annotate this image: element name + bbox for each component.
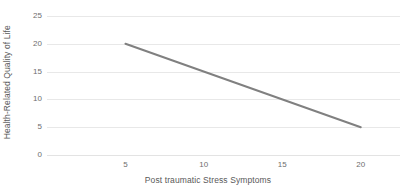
series-line-group xyxy=(47,16,400,155)
y-tick-label-5: 5 xyxy=(14,123,42,131)
y-axis-title: Health-Related Quality of Life xyxy=(0,0,14,165)
gridline-y-0 xyxy=(47,155,400,156)
x-tick-label-15: 15 xyxy=(267,161,297,169)
x-axis-title: Post traumatic Stress Symptoms xyxy=(0,176,416,185)
x-tick-label-5: 5 xyxy=(110,161,140,169)
x-tick-label-20: 20 xyxy=(346,161,376,169)
y-tick-label-20: 20 xyxy=(14,40,42,48)
y-tick-label-10: 10 xyxy=(14,95,42,103)
y-tick-label-0: 0 xyxy=(14,151,42,159)
y-axis-title-text: Health-Related Quality of Life xyxy=(3,25,12,139)
series-line-regression-line xyxy=(125,44,360,127)
plot-area xyxy=(47,16,400,155)
x-tick-label-10: 10 xyxy=(189,161,219,169)
y-tick-label-25: 25 xyxy=(14,12,42,20)
y-tick-label-15: 15 xyxy=(14,68,42,76)
chart-figure: Health-Related Quality of Life 051015202… xyxy=(0,0,416,196)
